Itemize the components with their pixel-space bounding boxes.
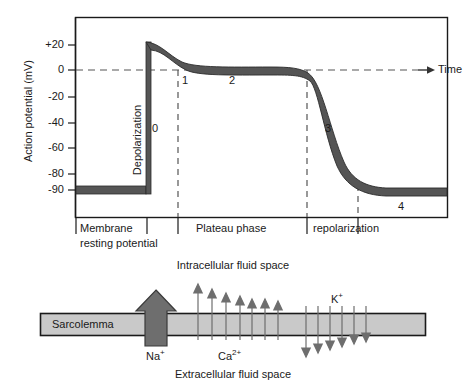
y-tick-label-0: 0 xyxy=(28,63,64,75)
extracellular-caption: Extracellular fluid space xyxy=(0,368,466,380)
action-potential-figure: Action potential (mV) +20 0 -20 -40 -60 … xyxy=(0,0,466,389)
na-symbol: Na xyxy=(146,350,160,362)
phase-label-2: 2 xyxy=(229,74,235,86)
ca-ion-label: Ca2+ xyxy=(218,348,241,362)
time-axis-label: Time xyxy=(438,63,462,75)
k-charge: + xyxy=(338,291,343,300)
depolarization-label: Depolarization xyxy=(131,75,143,205)
figure-canvas xyxy=(0,0,466,389)
y-tick-label-m60: -60 xyxy=(28,141,64,153)
y-tick-label-m20: -20 xyxy=(28,90,64,102)
y-tick-label-m40: -40 xyxy=(28,116,64,128)
ca-charge: 2+ xyxy=(232,348,241,357)
ca-symbol: Ca xyxy=(218,350,232,362)
phase-label-1: 1 xyxy=(182,74,188,86)
k-ion-label: K+ xyxy=(331,291,343,305)
y-tick-label-m80: -80 xyxy=(28,167,64,179)
phase-label-3: 3 xyxy=(325,122,331,134)
region-label-membrane-line2: resting potential xyxy=(80,237,158,249)
region-label-membrane-line1: Membrane xyxy=(80,222,133,234)
na-charge: + xyxy=(160,348,165,357)
phase-label-4: 4 xyxy=(398,200,404,212)
region-label-repolarization: repolarization xyxy=(313,222,379,234)
intracellular-caption: Intracellular fluid space xyxy=(0,259,466,271)
region-label-plateau: Plateau phase xyxy=(196,222,266,234)
na-ion-label: Na+ xyxy=(146,348,165,362)
phase-0-upstroke xyxy=(146,42,151,194)
y-tick-label-m90: -90 xyxy=(28,183,64,195)
y-tick-label-20: +20 xyxy=(28,38,64,50)
phase-label-0: 0 xyxy=(152,122,158,134)
sarcolemma-label: Sarcolemma xyxy=(52,318,114,330)
